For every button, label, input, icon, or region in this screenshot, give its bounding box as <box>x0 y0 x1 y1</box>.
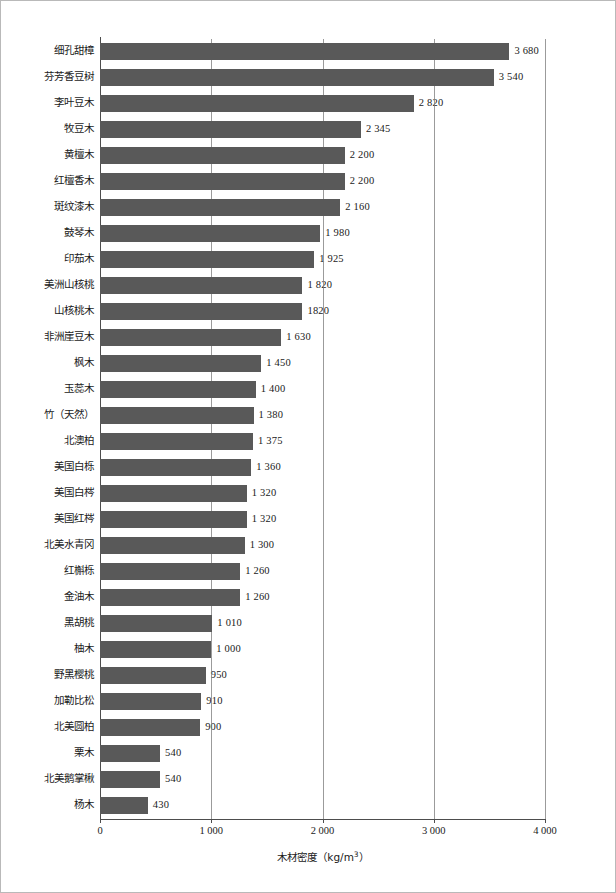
bar[interactable] <box>100 355 261 372</box>
bar-value-label: 1 360 <box>256 458 281 475</box>
bar[interactable] <box>100 95 414 112</box>
category-label: 鼓琴木 <box>2 224 94 241</box>
bar[interactable] <box>100 667 206 684</box>
category-label: 美国白梣 <box>2 484 94 501</box>
category-label-row: 黄檀木 <box>1 143 94 169</box>
bar[interactable] <box>100 745 160 762</box>
bar-value-label: 2 200 <box>350 172 375 189</box>
category-label-row: 金油木 <box>1 585 94 611</box>
x-axis-tick-label: 3 000 <box>422 825 446 836</box>
bar[interactable] <box>100 147 345 164</box>
category-label-row: 美国白梣 <box>1 481 94 507</box>
bar-value-label: 1 380 <box>259 406 284 423</box>
category-label: 李叶豆木 <box>2 94 94 111</box>
category-label-row: 黑胡桃 <box>1 611 94 637</box>
bar-value-label: 1 260 <box>245 562 270 579</box>
bar[interactable] <box>100 563 240 580</box>
bar-value-label: 1 980 <box>325 224 350 241</box>
bar[interactable] <box>100 407 254 424</box>
bar-value-label: 2 160 <box>345 198 370 215</box>
x-axis-tick-label: 2 000 <box>311 825 335 836</box>
category-label: 杨木 <box>2 796 94 813</box>
wood-density-bar-chart: 细孔甜樟芬芳香豆树李叶豆木牧豆木黄檀木红檀香木斑纹漆木鼓琴木印茄木美洲山核桃山核… <box>0 0 616 893</box>
category-label-row: 美洲山核桃 <box>1 273 94 299</box>
category-label: 加勒比松 <box>2 692 94 709</box>
category-label: 野黑樱桃 <box>2 666 94 683</box>
category-label-row: 牧豆木 <box>1 117 94 143</box>
bar[interactable] <box>100 485 247 502</box>
bar[interactable] <box>100 173 345 190</box>
bar-value-label: 1 300 <box>250 536 275 553</box>
bar[interactable] <box>100 459 251 476</box>
bar[interactable] <box>100 251 314 268</box>
bar[interactable] <box>100 121 361 138</box>
category-label: 美国白栎 <box>2 458 94 475</box>
category-axis-labels: 细孔甜樟芬芳香豆树李叶豆木牧豆木黄檀木红檀香木斑纹漆木鼓琴木印茄木美洲山核桃山核… <box>1 39 94 819</box>
category-label-row: 鼓琴木 <box>1 221 94 247</box>
bar[interactable] <box>100 433 253 450</box>
bar-value-label: 1 320 <box>252 484 277 501</box>
bar[interactable] <box>100 615 212 632</box>
x-axis-tick <box>211 819 212 823</box>
category-label-row: 斑纹漆木 <box>1 195 94 221</box>
x-axis-tick <box>545 819 546 823</box>
category-label-row: 北澳柏 <box>1 429 94 455</box>
category-label-row: 栗木 <box>1 741 94 767</box>
bar[interactable] <box>100 303 302 320</box>
category-label: 金油木 <box>2 588 94 605</box>
bar-value-label: 1 320 <box>252 510 277 527</box>
category-label: 非洲崖豆木 <box>2 328 94 345</box>
bar-value-label: 900 <box>205 718 221 735</box>
category-label: 北美鹅掌楸 <box>2 770 94 787</box>
bar[interactable] <box>100 641 211 658</box>
category-label: 玉蕊木 <box>2 380 94 397</box>
bar[interactable] <box>100 329 281 346</box>
category-label: 红檀香木 <box>2 172 94 189</box>
bar[interactable] <box>100 719 200 736</box>
bar[interactable] <box>100 771 160 788</box>
bar[interactable] <box>100 693 201 710</box>
category-label-row: 柚木 <box>1 637 94 663</box>
bar[interactable] <box>100 69 494 86</box>
category-label: 细孔甜樟 <box>2 42 94 59</box>
category-label: 柚木 <box>2 640 94 657</box>
bar-value-label: 540 <box>165 744 181 761</box>
category-label-row: 美国白栎 <box>1 455 94 481</box>
category-label-row: 玉蕊木 <box>1 377 94 403</box>
category-label-row: 北美水青冈 <box>1 533 94 559</box>
bar[interactable] <box>100 199 340 216</box>
category-label: 栗木 <box>2 744 94 761</box>
bar-value-label: 910 <box>206 692 222 709</box>
category-label-row: 野黑樱桃 <box>1 663 94 689</box>
bar[interactable] <box>100 381 256 398</box>
bar-value-label: 540 <box>165 770 181 787</box>
category-label-row: 加勒比松 <box>1 689 94 715</box>
plot-area: 3 6803 5402 8202 3452 2002 2002 1601 980… <box>100 39 545 819</box>
bar-value-label: 3 540 <box>499 68 524 85</box>
category-label: 牧豆木 <box>2 120 94 137</box>
bar-value-label: 1 820 <box>307 276 332 293</box>
x-axis-tick <box>434 819 435 823</box>
bar-value-label: 2 345 <box>366 120 391 137</box>
bar[interactable] <box>100 537 245 554</box>
category-label: 美洲山核桃 <box>2 276 94 293</box>
bar[interactable] <box>100 225 320 242</box>
bar-value-label: 1 010 <box>217 614 242 631</box>
category-label-row: 红槲栎 <box>1 559 94 585</box>
bar[interactable] <box>100 43 509 60</box>
category-label-row: 非洲崖豆木 <box>1 325 94 351</box>
x-axis-tick-label: 1 000 <box>199 825 223 836</box>
bar[interactable] <box>100 797 148 814</box>
bar[interactable] <box>100 277 302 294</box>
category-label: 美国红梣 <box>2 510 94 527</box>
bar[interactable] <box>100 589 240 606</box>
bar-value-label: 1 260 <box>245 588 270 605</box>
bar[interactable] <box>100 511 247 528</box>
gridline <box>434 39 435 819</box>
bar-value-label: 2 200 <box>350 146 375 163</box>
bar-value-label: 2 820 <box>419 94 444 111</box>
category-label: 芬芳香豆树 <box>2 68 94 85</box>
bar-value-label: 950 <box>211 666 227 683</box>
category-label: 山核桃木 <box>2 302 94 319</box>
category-label-row: 竹（天然） <box>1 403 94 429</box>
